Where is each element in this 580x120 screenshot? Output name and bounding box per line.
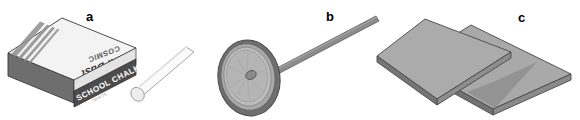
figure-panel-container: a — [0, 0, 580, 120]
chalk-stick-shape — [128, 46, 194, 104]
chalk-box-shape: Anti-Dust COSMIC SCHOOL CHALK WHITE — [8, 18, 145, 109]
chalk-box-illustration: Anti-Dust COSMIC SCHOOL CHALK WHITE — [0, 0, 200, 120]
plates-illustration — [375, 0, 580, 120]
panel-a-chalk-box: a — [0, 0, 200, 120]
panel-c-plates: c — [375, 0, 580, 120]
duster-disc-illustration — [190, 0, 380, 120]
duster-disc-shape — [213, 36, 285, 120]
panel-b-duster-disc: b — [190, 0, 380, 120]
